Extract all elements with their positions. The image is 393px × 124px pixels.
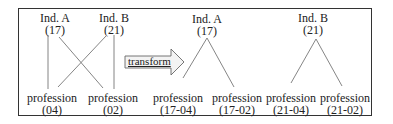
node-ind-b-right: Ind. B (21) xyxy=(278,12,348,36)
node-profession-04: profession (04) xyxy=(17,92,87,116)
node-id: (21-02) xyxy=(310,104,380,116)
node-ind-b: Ind. B (21) xyxy=(79,12,149,36)
node-profession-21-02: profession (21-02) xyxy=(310,92,380,116)
node-id: (21) xyxy=(79,24,149,36)
node-profession-02: profession (02) xyxy=(78,92,148,116)
node-id: (04) xyxy=(17,104,87,116)
transform-label: transform xyxy=(128,55,171,67)
node-id: (02) xyxy=(78,104,148,116)
node-id: (21) xyxy=(278,24,348,36)
node-ind-a-right: Ind. A (17) xyxy=(172,13,242,37)
node-id: (17) xyxy=(172,25,242,37)
